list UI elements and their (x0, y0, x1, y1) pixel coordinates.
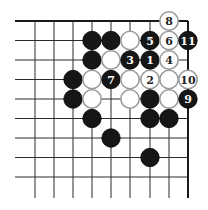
black-stone-move-5: 5 (141, 31, 159, 49)
white-stone (121, 70, 139, 88)
move-number: 3 (126, 54, 134, 67)
white-stone (121, 90, 139, 108)
black-stone (64, 70, 82, 88)
black-stone (102, 31, 120, 49)
move-number: 1 (146, 54, 154, 67)
black-stone (83, 109, 101, 127)
stone-circle (160, 109, 178, 127)
white-stone (83, 70, 101, 88)
stone-circle (141, 109, 159, 127)
stone-circle (102, 31, 120, 49)
white-stone-move-8: 8 (160, 12, 178, 30)
white-stone (83, 90, 101, 108)
black-stone-move-11: 11 (179, 31, 197, 49)
stone-circle (64, 70, 82, 88)
move-number: 10 (180, 74, 196, 87)
move-number: 9 (184, 93, 192, 106)
black-stone-move-9: 9 (179, 90, 197, 108)
black-stone-move-3: 3 (121, 51, 139, 69)
white-stone-move-10: 10 (179, 70, 197, 88)
move-number: 11 (180, 35, 195, 48)
black-stone (160, 109, 178, 127)
black-stone (141, 148, 159, 166)
stone-circle (141, 90, 159, 108)
white-stone-move-2: 2 (141, 70, 159, 88)
black-stone (83, 51, 101, 69)
white-stone (102, 51, 120, 69)
go-board-diagram: 8561131472109 (0, 0, 208, 210)
stone-circle (102, 129, 120, 147)
move-number: 5 (146, 35, 154, 48)
stone-circle (83, 109, 101, 127)
stone-circle (160, 90, 178, 108)
black-stone (64, 90, 82, 108)
black-stone (141, 109, 159, 127)
stone-circle (160, 70, 178, 88)
move-number: 8 (165, 15, 173, 28)
white-stone (121, 31, 139, 49)
black-stone (83, 31, 101, 49)
move-number: 7 (107, 74, 115, 87)
white-stone (160, 90, 178, 108)
stone-circle (83, 90, 101, 108)
stone-circle (121, 31, 139, 49)
black-stone-move-7: 7 (102, 70, 120, 88)
stone-circle (83, 31, 101, 49)
stone-circle (83, 70, 101, 88)
white-stone-move-6: 6 (160, 31, 178, 49)
stone-circle (64, 90, 82, 108)
stone-circle (141, 148, 159, 166)
black-stone (141, 90, 159, 108)
stone-circle (83, 51, 101, 69)
white-stone (160, 70, 178, 88)
move-number: 4 (165, 54, 173, 67)
stone-circle (121, 90, 139, 108)
move-number: 2 (146, 74, 154, 87)
move-number: 6 (165, 35, 173, 48)
black-stone-move-1: 1 (141, 51, 159, 69)
white-stone-move-4: 4 (160, 51, 178, 69)
stone-circle (102, 51, 120, 69)
black-stone (102, 129, 120, 147)
stone-circle (121, 70, 139, 88)
